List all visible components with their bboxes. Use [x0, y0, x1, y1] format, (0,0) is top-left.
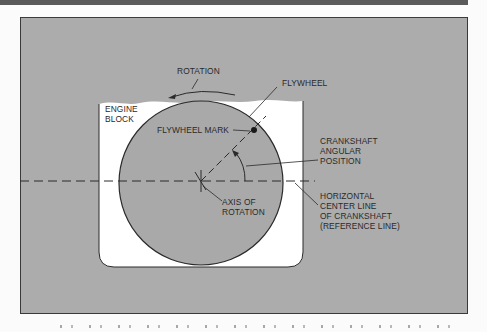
flywheel-mark-label: FLYWHEEL MARK: [157, 125, 229, 135]
cut-off-caption-text: [60, 325, 460, 328]
axis-of-rotation-label: AXIS OF ROTATION: [222, 197, 265, 217]
flywheel-label: FLYWHEEL: [282, 78, 327, 88]
rotation-label: ROTATION: [177, 66, 220, 76]
rotation-arrow-icon: [168, 94, 176, 99]
horizontal-center-line-label: HORIZONTAL CENTER LINE OF CRANKSHAFT (RE…: [320, 191, 400, 231]
crankshaft-angular-position-label: CRANKSHAFT ANGULAR POSITION: [320, 136, 378, 166]
rotation-arc: [172, 91, 235, 97]
engine-block-label: ENGINE BLOCK: [105, 104, 138, 124]
crankshaft-diagram: [0, 0, 487, 332]
flywheel-mark-dot: [251, 127, 257, 133]
